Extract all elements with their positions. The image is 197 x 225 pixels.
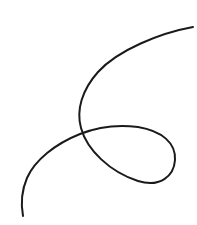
drawing-canvas: [0, 0, 197, 225]
